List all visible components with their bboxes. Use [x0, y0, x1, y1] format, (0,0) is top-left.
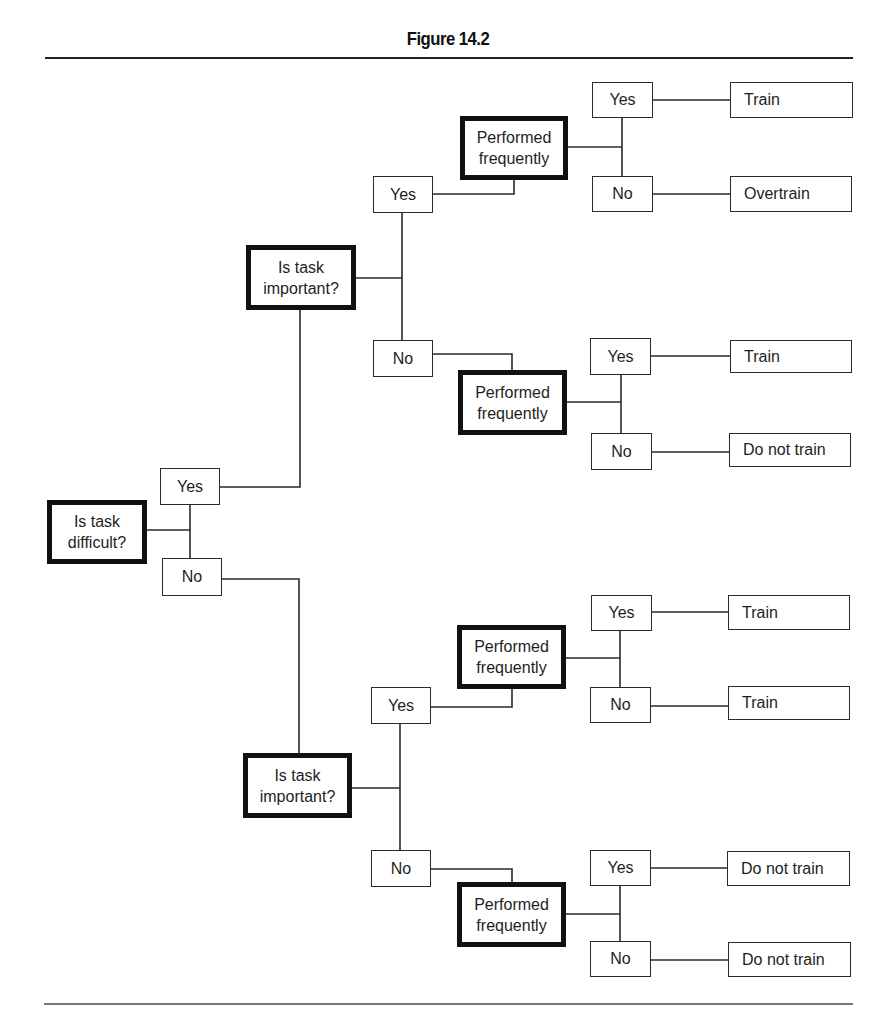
outcome-label: Train [742, 694, 778, 712]
answer-label: Yes [607, 859, 633, 877]
outcome-overtrain: Overtrain [730, 176, 852, 212]
answer-no-frequent-1: No [592, 176, 653, 212]
answer-label: No [393, 350, 413, 368]
question-task-difficult: Is task difficult? [47, 500, 147, 564]
answer-label: No [610, 696, 630, 714]
outcome-label: Overtrain [744, 185, 810, 203]
question-label: Performed frequently [474, 894, 549, 936]
answer-label: No [611, 443, 631, 461]
outcome-label: Train [742, 604, 778, 622]
answer-no-difficult: No [162, 558, 222, 596]
outcome-do-not-train-3: Do not train [728, 942, 851, 977]
question-task-important-1: Is task important? [246, 245, 356, 310]
outcome-do-not-train-2: Do not train [727, 851, 850, 886]
question-label: Is task difficult? [68, 511, 126, 553]
answer-yes-frequent-1: Yes [592, 82, 653, 118]
answer-yes-frequent-4: Yes [590, 850, 651, 886]
answer-label: No [391, 860, 411, 878]
answer-no-important-2: No [371, 850, 431, 887]
outcome-train-1: Train [730, 82, 853, 118]
answer-yes-frequent-3: Yes [591, 595, 652, 631]
answer-no-frequent-4: No [590, 941, 651, 977]
answer-label: No [610, 950, 630, 968]
answer-yes-frequent-2: Yes [590, 338, 651, 375]
question-label: Performed frequently [475, 382, 550, 424]
outcome-label: Train [744, 91, 780, 109]
question-task-important-2: Is task important? [243, 753, 352, 818]
outcome-label: Do not train [741, 860, 824, 878]
question-performed-frequently-2: Performed frequently [458, 370, 567, 435]
outcome-label: Train [744, 348, 780, 366]
question-label: Performed frequently [474, 636, 549, 678]
outcome-label: Do not train [742, 951, 825, 969]
outcome-train-3: Train [728, 595, 850, 630]
outcome-label: Do not train [743, 441, 826, 459]
answer-label: No [182, 568, 202, 586]
question-label: Is task important? [263, 257, 339, 299]
outcome-train-2: Train [730, 340, 852, 373]
answer-no-frequent-2: No [591, 433, 652, 470]
answer-label: Yes [608, 604, 634, 622]
outcome-train-4: Train [728, 686, 850, 720]
answer-label: Yes [177, 478, 203, 496]
question-performed-frequently-4: Performed frequently [457, 882, 566, 947]
answer-label: No [612, 185, 632, 203]
bottom-rule [44, 1003, 853, 1005]
answer-yes-important-2: Yes [371, 687, 431, 724]
answer-label: Yes [609, 91, 635, 109]
outcome-do-not-train-1: Do not train [729, 433, 851, 467]
answer-no-important-1: No [373, 340, 433, 377]
answer-yes-important-1: Yes [373, 176, 433, 213]
question-performed-frequently-1: Performed frequently [460, 116, 568, 180]
answer-yes-difficult: Yes [160, 468, 220, 505]
answer-no-frequent-3: No [590, 687, 651, 723]
answer-label: Yes [607, 348, 633, 366]
question-performed-frequently-3: Performed frequently [457, 625, 566, 689]
question-label: Performed frequently [477, 127, 552, 169]
answer-label: Yes [390, 186, 416, 204]
question-label: Is task important? [260, 765, 336, 807]
answer-label: Yes [388, 697, 414, 715]
